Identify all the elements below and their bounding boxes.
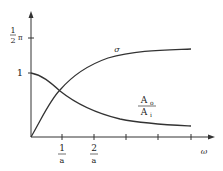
y-label-half-num: 1: [10, 26, 15, 35]
x-label-1-num: 1: [59, 143, 65, 153]
x-label-2-den: a: [92, 156, 97, 165]
x-label-2-num: 2: [91, 143, 97, 153]
x-axis-arrow-icon: [208, 135, 215, 140]
x-label-1-den: a: [60, 156, 65, 165]
ratio-label-den: A: [140, 107, 148, 117]
ratio-label-den-sub: i: [150, 111, 152, 118]
y-label-pi: π: [18, 34, 23, 42]
y-label-half-den: 2: [10, 36, 15, 45]
y-label-one: 1: [17, 67, 23, 78]
ratio-label-num: A: [140, 95, 148, 105]
x-axis-label-omega: ω: [201, 147, 208, 156]
ratio-label-num-sub: o: [150, 99, 154, 106]
sigma-label: σ: [114, 45, 120, 54]
sigma-curve: [31, 49, 191, 137]
phase-amplitude-diagram: 1 2 π 1 1 a 2 a ω σ A o A i: [0, 0, 223, 171]
y-axis-arrow-icon: [29, 11, 34, 18]
amplitude-ratio-curve: [31, 73, 191, 126]
